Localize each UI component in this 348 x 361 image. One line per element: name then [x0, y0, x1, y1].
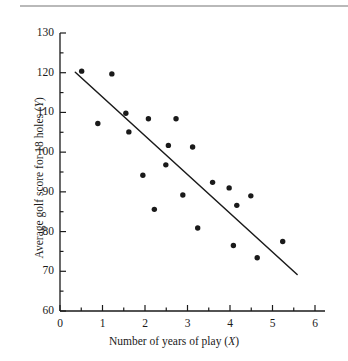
x-axis-tick-label: 6 — [305, 318, 325, 330]
data-point — [195, 225, 200, 230]
y-axis-tick-label: 60 — [28, 305, 54, 317]
data-point — [190, 144, 195, 149]
y-axis-title: Average golf score for 18 holes (Y) — [34, 58, 46, 298]
x-axis-title-suffix: ) — [235, 335, 239, 347]
data-point — [280, 239, 285, 244]
x-axis-title: Number of years of play (X) — [0, 336, 348, 348]
data-point — [140, 172, 145, 177]
data-point — [180, 192, 185, 197]
data-point — [210, 180, 215, 185]
data-point — [234, 203, 239, 208]
data-point — [79, 68, 84, 73]
y-axis-title-prefix: Average golf score for 18 holes ( — [33, 107, 45, 258]
y-axis-tick-label: 130 — [28, 27, 54, 39]
scatter-plot-figure: 60708090100110120130 0123456 Number of y… — [0, 0, 348, 361]
x-axis-tick-label: 1 — [93, 318, 113, 330]
x-axis-title-prefix: Number of years of play ( — [109, 335, 228, 347]
data-point — [226, 185, 231, 190]
axis-lines — [60, 33, 325, 311]
data-point — [255, 255, 260, 260]
y-axis-title-suffix: ) — [33, 97, 45, 101]
x-axis-tick-label: 2 — [135, 318, 155, 330]
y-axis-ticks — [60, 33, 66, 311]
x-axis-tick-label: 0 — [50, 318, 70, 330]
regression-line — [75, 72, 297, 274]
data-point — [123, 111, 128, 116]
data-points — [79, 68, 285, 260]
data-point — [166, 143, 171, 148]
data-point — [163, 162, 168, 167]
x-axis-tick-label: 3 — [178, 318, 198, 330]
data-point — [126, 129, 131, 134]
data-point — [152, 207, 157, 212]
y-axis-variable: Y — [33, 101, 45, 107]
regression-line-segment — [75, 72, 297, 274]
data-point — [173, 116, 178, 121]
data-point — [95, 121, 100, 126]
x-axis-ticks — [60, 305, 315, 311]
x-axis-tick-label: 4 — [220, 318, 240, 330]
data-point — [109, 71, 114, 76]
data-point — [146, 116, 151, 121]
data-point — [231, 243, 236, 248]
data-point — [248, 193, 253, 198]
x-axis-tick-label: 5 — [263, 318, 283, 330]
